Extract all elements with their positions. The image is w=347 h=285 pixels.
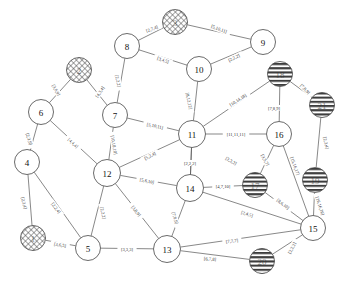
graph-node-5[interactable]: 5 xyxy=(76,236,101,261)
node-id-label: 9 xyxy=(261,38,266,48)
graph-node-10[interactable]: 10 xyxy=(187,57,212,82)
graph-node-7[interactable]: 7 xyxy=(103,103,128,128)
graph-svg: [2,7,4][5,10,11][3,4,5][2,2,2][2,2,2][3,… xyxy=(0,0,347,285)
edge-weight-label: [2,2,2] xyxy=(113,74,122,88)
graph-edge xyxy=(316,117,321,167)
node-id-label: 5 xyxy=(86,244,91,254)
graph-node-2[interactable]: 2 xyxy=(67,58,92,83)
node-id-label: 12 xyxy=(103,169,112,179)
node-id-label: 18 xyxy=(276,70,286,80)
edge-weight-label: [3,6,5] xyxy=(53,242,66,250)
node-id-label: 13 xyxy=(163,245,173,255)
graph-node-14[interactable]: 14 xyxy=(177,175,204,202)
edge-weight-label: [2,4,5] xyxy=(240,210,254,219)
edge-weight-label: [3,4,5] xyxy=(156,56,170,66)
edge-weight-label: [2,3,4] xyxy=(19,196,28,210)
node-id-label: 10 xyxy=(195,65,205,75)
node-id-label: 4 xyxy=(25,158,30,168)
graph-edge xyxy=(28,174,32,225)
graph-edge xyxy=(193,81,197,120)
graph-node-1[interactable]: 1 xyxy=(21,226,46,251)
graph-node-19[interactable]: 19 xyxy=(303,168,328,193)
node-id-label: 1 xyxy=(31,234,36,244)
graph-diagram-canvas: [2,7,4][5,10,11][3,4,5][2,2,2][2,2,2][3,… xyxy=(0,0,347,285)
edge-weight-label: [10,10,10] xyxy=(109,135,118,155)
graph-node-15[interactable]: 15 xyxy=(301,216,326,241)
node-id-label: 20 xyxy=(258,257,268,267)
graph-edge xyxy=(279,86,280,121)
graph-node-3[interactable]: 3 xyxy=(163,10,188,35)
edge-weight-label: [2,2,2] xyxy=(98,206,107,220)
node-id-label: 17 xyxy=(251,181,261,191)
node-layer: 389102187621111641214171915151320 xyxy=(15,10,335,274)
graph-node-8[interactable]: 8 xyxy=(115,34,140,59)
node-id-label: 6 xyxy=(39,108,44,118)
graph-node-18[interactable]: 18 xyxy=(268,62,293,87)
node-id-label: 3 xyxy=(173,18,178,28)
node-id-label: 21 xyxy=(318,101,327,111)
graph-node-16[interactable]: 16 xyxy=(267,122,292,147)
graph-node-11[interactable]: 11 xyxy=(179,121,206,148)
node-id-label: 15 xyxy=(309,224,319,234)
node-id-label: 14 xyxy=(186,184,196,194)
edge-weight-label: [2,3,4] xyxy=(321,136,330,150)
edge-weight-label: [10,14,18] xyxy=(229,92,249,108)
node-id-label: 8 xyxy=(125,42,130,52)
edge-weight-label: [7,8,9] xyxy=(170,211,179,225)
graph-node-12[interactable]: 12 xyxy=(94,160,121,187)
graph-node-17[interactable]: 17 xyxy=(243,173,268,198)
node-id-label: 7 xyxy=(113,111,118,121)
graph-node-9[interactable]: 9 xyxy=(251,30,276,55)
graph-node-21[interactable]: 21 xyxy=(310,93,335,118)
edge-weight-label: [5,6,10] xyxy=(139,177,155,186)
node-id-label: 11 xyxy=(188,130,197,140)
node-id-label: 16 xyxy=(275,130,285,140)
graph-node-13[interactable]: 13 xyxy=(154,236,181,263)
node-id-label: 2 xyxy=(77,66,82,76)
node-id-label: 19 xyxy=(311,176,321,186)
edge-weight-label: [8,12,12] xyxy=(184,92,193,110)
edge-weight-label: [5,10,11] xyxy=(146,122,164,131)
graph-node-6[interactable]: 6 xyxy=(29,100,54,125)
graph-node-4[interactable]: 4 xyxy=(15,150,40,175)
edge-weight-label: [2,3,9] xyxy=(24,132,34,146)
graph-node-20[interactable]: 20 xyxy=(250,249,275,274)
